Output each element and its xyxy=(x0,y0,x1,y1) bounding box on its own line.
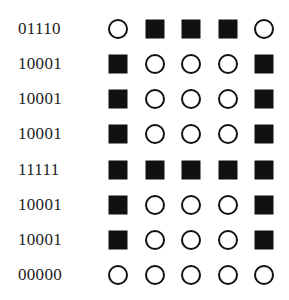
hollow-circle-icon xyxy=(181,265,201,285)
hollow-circle-icon xyxy=(218,265,238,285)
hollow-circle-icon xyxy=(218,230,238,250)
filled-square-icon xyxy=(109,196,128,215)
filled-square-icon xyxy=(146,20,165,39)
matrix-row: 10001 xyxy=(0,82,289,117)
hollow-circle-icon xyxy=(145,230,165,250)
hollow-circle-icon xyxy=(181,54,201,74)
filled-square-icon xyxy=(219,20,238,39)
matrix-row: 10001 xyxy=(0,47,289,82)
row-binary-code: 00000 xyxy=(18,265,62,285)
filled-square-icon xyxy=(255,125,274,144)
matrix-row: 11111 xyxy=(0,153,289,188)
filled-square-icon xyxy=(219,161,238,180)
filled-square-icon xyxy=(109,55,128,74)
hollow-circle-icon xyxy=(145,124,165,144)
matrix-row: 00000 xyxy=(0,258,289,293)
row-binary-code: 11111 xyxy=(18,160,59,180)
filled-square-icon xyxy=(109,161,128,180)
filled-square-icon xyxy=(109,125,128,144)
row-binary-code: 10001 xyxy=(18,54,62,74)
hollow-circle-icon xyxy=(218,54,238,74)
hollow-circle-icon xyxy=(108,19,128,39)
hollow-circle-icon xyxy=(145,195,165,215)
hollow-circle-icon xyxy=(145,265,165,285)
row-binary-code: 10001 xyxy=(18,230,62,250)
matrix-row: 10001 xyxy=(0,223,289,258)
filled-square-icon xyxy=(109,90,128,109)
row-binary-code: 10001 xyxy=(18,124,62,144)
filled-square-icon xyxy=(255,231,274,250)
filled-square-icon xyxy=(255,196,274,215)
hollow-circle-icon xyxy=(254,265,274,285)
matrix-row: 10001 xyxy=(0,117,289,152)
filled-square-icon xyxy=(182,161,201,180)
hollow-circle-icon xyxy=(181,89,201,109)
hollow-circle-icon xyxy=(108,265,128,285)
row-binary-code: 10001 xyxy=(18,195,62,215)
hollow-circle-icon xyxy=(181,195,201,215)
hollow-circle-icon xyxy=(254,19,274,39)
hollow-circle-icon xyxy=(145,54,165,74)
filled-square-icon xyxy=(255,161,274,180)
row-binary-code: 10001 xyxy=(18,89,62,109)
hollow-circle-icon xyxy=(145,89,165,109)
matrix-row: 01110 xyxy=(0,12,289,47)
hollow-circle-icon xyxy=(218,195,238,215)
filled-square-icon xyxy=(146,161,165,180)
filled-square-icon xyxy=(182,20,201,39)
row-binary-code: 01110 xyxy=(18,19,61,39)
hollow-circle-icon xyxy=(218,89,238,109)
hollow-circle-icon xyxy=(218,124,238,144)
filled-square-icon xyxy=(255,90,274,109)
filled-square-icon xyxy=(255,55,274,74)
hollow-circle-icon xyxy=(181,230,201,250)
matrix-row: 10001 xyxy=(0,188,289,223)
hollow-circle-icon xyxy=(181,124,201,144)
filled-square-icon xyxy=(109,231,128,250)
